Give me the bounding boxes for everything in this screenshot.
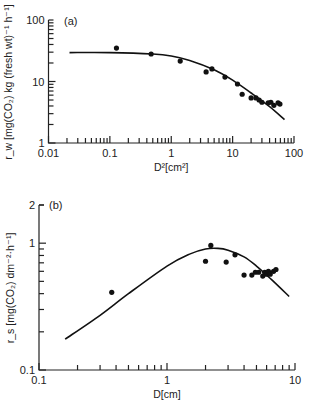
panel-label: (b) [49,199,62,211]
x-tick-label: 1 [164,374,170,386]
data-point [203,259,208,264]
chart-b: 0.11100.112D[cm]r_s [mg(CO₂) dm⁻²·h⁻¹](b… [0,0,312,414]
y-tick-label: 2 [29,199,35,211]
data-point [241,273,246,278]
axis-lines [39,205,295,370]
fitted-curve [65,248,289,339]
data-point [273,267,278,272]
data-point [224,259,229,264]
y-tick-label: 0.1 [20,364,35,376]
y-axis-title: r_s [mg(CO₂) dm⁻²·h⁻¹] [4,233,16,344]
y-tick-label: 1 [29,237,35,249]
data-point [109,290,114,295]
x-axis-title: D[cm] [153,388,180,400]
x-tick-label: 10 [289,374,301,386]
data-point [208,243,213,248]
